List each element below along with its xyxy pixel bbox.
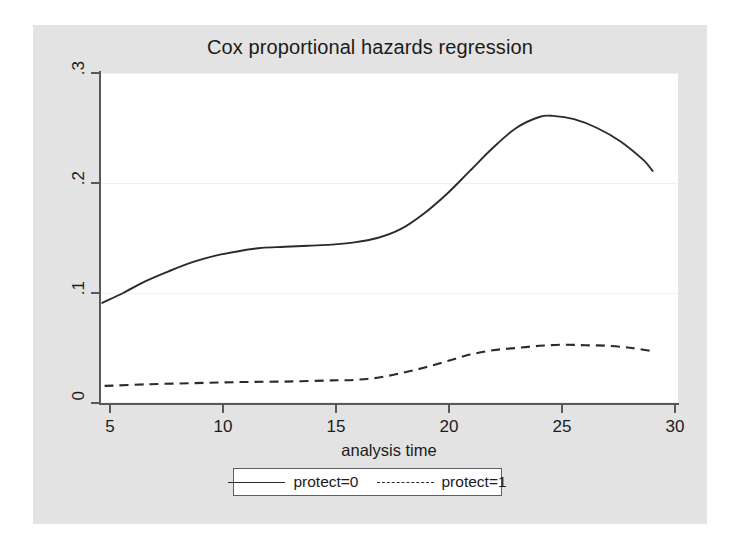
- y-tick-label-1: .1: [69, 281, 87, 295]
- x-tick-mark-20: [448, 404, 450, 413]
- chart-figure: Cox proportional hazards regression .3 .…: [33, 25, 707, 524]
- x-tick-label-30: 30: [655, 417, 695, 437]
- legend-line-dashed-icon: [377, 477, 434, 488]
- legend-entry-protect-0: protect=0: [228, 473, 358, 491]
- x-axis-title: analysis time: [100, 441, 678, 460]
- legend-label-protect-0: protect=0: [293, 473, 358, 491]
- x-axis-line: [99, 403, 679, 405]
- x-tick-mark-25: [561, 404, 563, 413]
- legend-label-protect-1: protect=1: [442, 473, 507, 491]
- x-tick-mark-15: [335, 404, 337, 413]
- series-line-protect-1: [105, 345, 653, 386]
- x-tick-mark-10: [222, 404, 224, 413]
- x-tick-label-10: 10: [203, 417, 243, 437]
- chart-title: Cox proportional hazards regression: [33, 36, 707, 59]
- y-axis-title: Smoothed hazard function: [0, 70, 293, 263]
- chart-legend: protect=0 protect=1: [233, 468, 502, 496]
- y-tick-mark-0: [91, 402, 99, 404]
- x-tick-mark-30: [674, 404, 676, 413]
- y-tick-label-0: 0: [69, 391, 87, 400]
- x-tick-label-20: 20: [429, 417, 469, 437]
- x-tick-mark-5: [109, 404, 111, 413]
- legend-entry-protect-1: protect=1: [377, 473, 507, 491]
- legend-line-solid-icon: [228, 477, 285, 488]
- y-tick-mark-1: [91, 292, 99, 294]
- x-tick-label-25: 25: [542, 417, 582, 437]
- x-tick-label-5: 5: [90, 417, 130, 437]
- x-tick-label-15: 15: [316, 417, 356, 437]
